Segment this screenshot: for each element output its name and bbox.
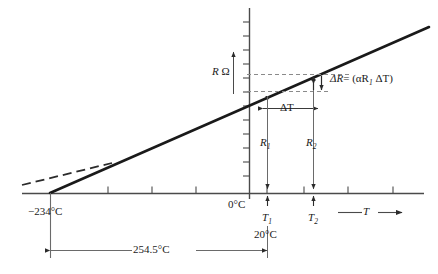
x-axis-ticks xyxy=(108,187,393,194)
t1-label: T1 xyxy=(262,212,272,226)
r1-label: R1 xyxy=(260,137,270,151)
r2-label: R2 xyxy=(306,137,316,151)
y-axis xyxy=(243,8,250,199)
y-axis-label: R Ω xyxy=(212,66,230,77)
resistance-line xyxy=(50,27,429,193)
inferred-zero-temperature-label: −234°C xyxy=(28,206,62,217)
t1-value-label: 20°C xyxy=(254,229,277,240)
delta-t-label: ΔT xyxy=(280,102,294,113)
resistance-temperature-diagram: R Ω ΔR= (αR1 ΔT) ΔT R1 R2 0°C T1 T2 20°C… xyxy=(0,0,438,274)
extrapolation-dashed-line xyxy=(22,163,112,185)
x-axis-label: T xyxy=(363,206,369,217)
delta-r-equation: ΔR= (αR1 ΔT) xyxy=(330,73,393,87)
x-axis xyxy=(22,187,424,194)
origin-temperature-label: 0°C xyxy=(228,199,245,210)
t2-label: T2 xyxy=(308,212,318,226)
temperature-span-label: 254.5°C xyxy=(133,244,170,255)
y-axis-ticks xyxy=(243,22,249,176)
diagram-canvas xyxy=(0,0,438,274)
